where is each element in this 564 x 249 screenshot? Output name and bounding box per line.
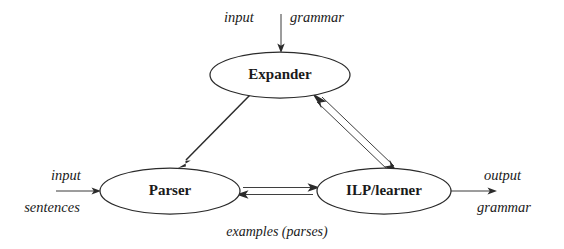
- input-grammar-label-input: input: [224, 9, 255, 25]
- expander-parser-shaft: [186, 95, 250, 160]
- edge-ilp-to-output-grammar: [451, 187, 497, 194]
- node-parser[interactable]: Parser: [100, 168, 240, 214]
- node-expander[interactable]: Expander: [210, 52, 350, 98]
- expander-ilp-rail-inner: [317, 102, 389, 171]
- edge-expander-ilp: [312, 93, 399, 175]
- node-ilp-learner[interactable]: ILP/learner: [317, 168, 451, 214]
- diagram-svg: Expander Parser ILP/learner input gramma…: [0, 0, 564, 249]
- edge-input-sentences-to-parser: [56, 187, 101, 194]
- parser-label: Parser: [149, 182, 192, 198]
- examples-parses-label: examples (parses): [226, 224, 328, 240]
- edge-expander-to-parser: [178, 95, 250, 168]
- expander-ilp-rail-outer: [322, 97, 394, 166]
- edge-parser-ilp: [236, 183, 320, 199]
- input-sentences-label-line2: sentences: [24, 199, 80, 215]
- expander-parser-arrowhead: [178, 160, 191, 168]
- output-grammar-label-line2: grammar: [477, 199, 531, 215]
- edge-input-grammar-to-expander: [277, 14, 284, 53]
- input-grammar-label-grammar: grammar: [290, 9, 344, 25]
- input-sentences-label-line1: input: [51, 167, 82, 183]
- diagram-canvas: Expander Parser ILP/learner input gramma…: [0, 0, 564, 249]
- output-grammar-label-line1: output: [484, 167, 522, 183]
- expander-label: Expander: [248, 66, 312, 82]
- ilp-learner-label: ILP/learner: [346, 182, 422, 198]
